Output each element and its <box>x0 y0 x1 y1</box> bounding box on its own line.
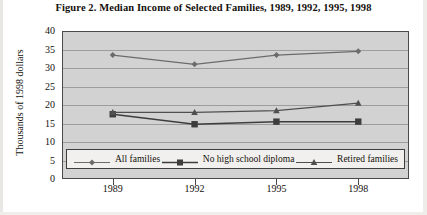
series-line <box>113 114 359 124</box>
x-tick-mark <box>358 179 359 185</box>
x-tick-mark <box>195 179 196 185</box>
legend-item-all-families: All families <box>73 154 160 165</box>
legend-label: Retired families <box>337 154 398 164</box>
legend-item-retired-families: Retired families <box>295 154 398 165</box>
chart-legend: All families No high school diploma Reti… <box>66 149 405 169</box>
series-triangle <box>109 100 361 115</box>
triangle-marker-icon <box>295 154 333 165</box>
series-line <box>113 103 359 112</box>
series-diamond <box>110 48 362 67</box>
x-tick-mark <box>113 179 114 185</box>
legend-item-no-high-school-diploma: No high school diploma <box>161 154 295 165</box>
square-marker-icon <box>191 121 197 127</box>
diamond-marker-icon <box>73 154 111 165</box>
square-marker-icon <box>161 154 199 165</box>
diamond-marker-icon <box>192 61 198 67</box>
x-tick-mark <box>276 179 277 185</box>
figure-container: Figure 2. Median Income of Selected Fami… <box>0 0 427 215</box>
legend-label: All families <box>115 154 160 164</box>
series-line <box>113 51 359 64</box>
diamond-marker-icon <box>110 52 116 58</box>
diamond-marker-icon <box>355 48 361 54</box>
legend-label: No high school diploma <box>203 154 295 164</box>
series-square <box>110 111 362 127</box>
square-marker-icon <box>273 118 279 124</box>
clipped-caption <box>0 206 427 215</box>
diamond-marker-icon <box>273 52 279 58</box>
square-marker-icon <box>355 118 361 124</box>
